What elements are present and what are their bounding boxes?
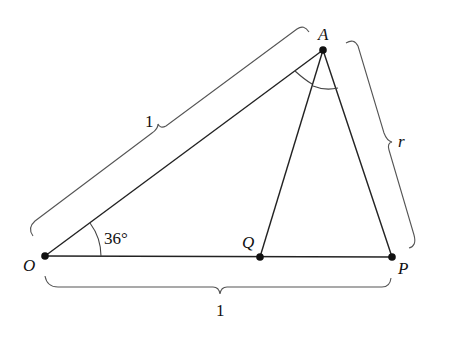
point-O [41, 252, 49, 260]
label-P: P [397, 259, 408, 278]
segment-OA [45, 50, 323, 256]
brace-label-OA: 1 [145, 112, 154, 131]
triangle-diagram: O Q P A 36° 1 1 r [0, 0, 449, 339]
angle-arc-A-inner [313, 86, 338, 89]
label-A: A [317, 25, 329, 44]
point-P [388, 253, 396, 261]
segment-OP [45, 256, 392, 257]
brace-label-OP: 1 [216, 301, 225, 320]
point-Q [256, 253, 264, 261]
brace-OA [30, 27, 309, 236]
segment-AP [323, 50, 392, 257]
brace-OP [45, 276, 391, 294]
angle-arc-O [90, 223, 101, 256]
angle-label-36: 36° [104, 229, 128, 248]
segment-AQ [260, 50, 323, 257]
angle-arc-A-outer [295, 71, 312, 84]
label-O: O [23, 256, 35, 275]
label-Q: Q [242, 233, 254, 252]
brace-label-AP: r [398, 132, 405, 151]
point-A [319, 46, 327, 54]
